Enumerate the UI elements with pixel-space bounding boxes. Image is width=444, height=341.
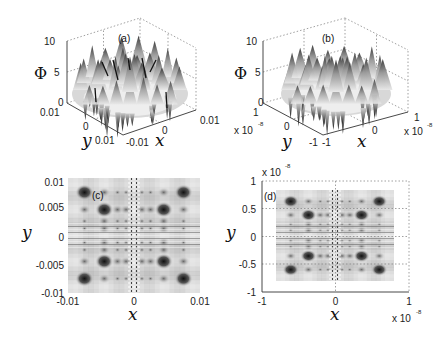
heatmap-blob: [177, 256, 190, 266]
y-exponent-power: -8: [258, 121, 264, 127]
panel-label-b: (b): [322, 33, 334, 44]
heatmap-blob: [317, 239, 323, 244]
panel-label-c: (c): [92, 190, 104, 201]
heatmap-blob: [78, 204, 91, 214]
panel-label-a: (a): [118, 33, 130, 44]
y-tick-label: 1: [253, 107, 259, 118]
x-tick-label: 1: [406, 296, 412, 307]
y-tick-label: 0.01: [95, 135, 115, 146]
surface-a: [72, 36, 188, 138]
heatmap-blob: [317, 267, 323, 272]
heatmap-blob: [154, 253, 172, 269]
heatmap-blob: [288, 228, 294, 233]
heatmap-blob: [288, 239, 294, 244]
panel-d-heatmap: (d) 10.50-0.5-1-101 x 10 -8 x 10 -8 y x: [225, 163, 422, 324]
heatmap-blob: [347, 199, 353, 204]
x-tick-label: -1: [258, 296, 267, 307]
heatmap-blob: [347, 267, 353, 272]
y-tick-label: -1: [309, 137, 318, 148]
z-tick-label: 5: [54, 67, 60, 78]
heatmap-blob: [347, 228, 353, 233]
heatmap-blob: [376, 239, 382, 244]
x-tick-label: 1: [414, 112, 420, 123]
heatmap-blob: [139, 276, 146, 282]
heatmap-blob: [353, 209, 370, 222]
heatmap-blob: [317, 199, 323, 204]
heatmap-blob: [177, 204, 190, 214]
y-tick-label: 0.01: [40, 107, 60, 118]
heatmap-blob: [303, 266, 315, 274]
heatmap-blob: [288, 245, 294, 250]
heatmap-blob: [123, 276, 130, 282]
heatmap-blob: [139, 190, 146, 196]
heatmap-blob: [317, 222, 323, 227]
heatmap-blob: [174, 184, 192, 200]
surface-trough: [331, 112, 336, 130]
heatmap-blob: [356, 197, 368, 205]
heatmap-blob: [114, 276, 121, 282]
y-axis-label: y: [21, 222, 32, 242]
heatmap-blob: [376, 222, 382, 227]
heatmap-blob: [376, 228, 382, 233]
x-tick-label: 0: [372, 125, 378, 136]
surface-trough: [336, 112, 341, 130]
x-tick-label: 0.01: [190, 296, 210, 307]
x-tick-label: -0.01: [57, 296, 80, 307]
heatmap-blob: [285, 252, 297, 260]
heatmap-d: [276, 190, 395, 282]
x-axis-label: x: [330, 304, 340, 324]
heatmap-blob: [347, 245, 353, 250]
x-axis-label: x: [357, 131, 367, 151]
y-axis-label: y: [225, 222, 236, 242]
x-tick-label: -0.01: [126, 137, 149, 148]
y-exponent: x 10: [234, 125, 253, 136]
z-axis-label: Φ: [34, 64, 47, 83]
y-tick-label: -0.5: [239, 259, 257, 270]
y-tick-label: 0.01: [45, 177, 65, 188]
heatmap-blob: [157, 273, 170, 283]
panel-label-d: (d): [264, 191, 276, 202]
heatmap-blob: [347, 239, 353, 244]
y-exponent-power: -8: [285, 163, 291, 169]
heatmap-blob: [95, 253, 113, 269]
heatmap-blob: [95, 202, 113, 218]
heatmap-blob: [373, 211, 385, 219]
x-axis-label: x: [128, 304, 138, 324]
x-exponent: x 10: [404, 126, 423, 137]
heatmap-blob: [371, 263, 388, 276]
heatmap-blob: [347, 222, 353, 227]
z-tick-label: 0: [258, 97, 264, 108]
heatmap-blob: [371, 195, 388, 208]
heatmap-blob: [288, 222, 294, 227]
z-axis-label: Φ: [234, 64, 247, 83]
heatmap-blob: [75, 271, 93, 287]
heatmap-blob: [98, 273, 111, 283]
x-exponent: x 10: [392, 313, 411, 324]
y-tick-label: -1: [247, 287, 256, 298]
heatmap-blob: [147, 276, 154, 282]
z-tick-label: 10: [246, 36, 258, 47]
x-axis-label: x: [155, 130, 165, 150]
heatmap-blob: [78, 256, 91, 266]
y-axis-label: y: [281, 131, 292, 151]
heatmap-blob: [157, 187, 170, 197]
heatmap-blob: [300, 250, 317, 263]
heatmap-blob: [119, 256, 132, 266]
panel-b-surface: (b) 10 5 0 Φ 1 0 -1 x 10 -8 y -1 0 1 x x…: [234, 18, 433, 151]
y-tick-label: 0: [250, 232, 256, 243]
heatmap-blob: [373, 252, 385, 260]
heatmap-blob: [123, 190, 130, 196]
heatmap-blob: [317, 228, 323, 233]
heatmap-blob: [75, 184, 93, 200]
grid-line: [345, 18, 408, 50]
surface-trough: [130, 114, 135, 127]
x-exponent-power: -8: [427, 122, 433, 128]
heatmap-blob: [154, 202, 172, 218]
heatmap-blob: [119, 204, 132, 214]
heatmap-blob: [174, 271, 192, 287]
panel-a-surface: (a) 10 5 0 Φ 0.01 0 0.01 y -0.01 0 0.01 …: [34, 18, 220, 150]
y-tick-label: 1: [250, 176, 256, 187]
surface-trough: [125, 114, 130, 128]
panel-c-heatmap: (c) 0.010.0050-0.005-0.01-0.0100.01 y x: [21, 177, 210, 324]
z-tick-label: 10: [44, 36, 56, 47]
